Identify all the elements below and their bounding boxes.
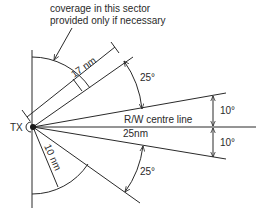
upper-25deg-angle-arc (124, 61, 142, 109)
upper-range-tick-arc (73, 79, 82, 91)
transmitter-dot (30, 124, 36, 130)
lower-10deg-label: 10° (220, 137, 235, 148)
upper-25deg-label: 25° (140, 72, 155, 83)
transmitter-label: TX (10, 122, 23, 133)
centre-line-label: R/W centre line (124, 114, 193, 125)
note-leader-arrow (54, 28, 72, 60)
upper-range-tick-end (111, 42, 119, 53)
lower-25deg-label: 25° (140, 166, 155, 177)
upper-10deg-label: 10° (220, 105, 235, 116)
upper-range-label: 17 nm (69, 55, 98, 80)
coverage-diagram: TX R/W centre line 25nm 17 nm 10 nm 25° … (0, 0, 266, 216)
centre-line-range: 25nm (123, 128, 148, 139)
